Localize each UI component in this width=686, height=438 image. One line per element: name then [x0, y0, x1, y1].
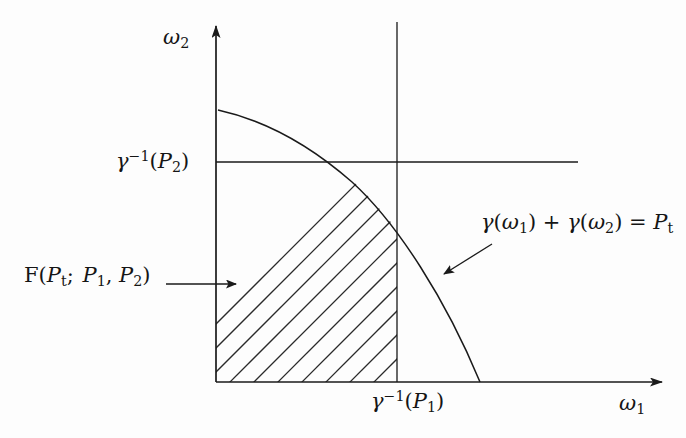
semicolon: ; [67, 263, 74, 287]
p-subscript: 2 [172, 159, 181, 175]
gamma-symbol: γ [371, 389, 384, 413]
x-axis-label: ω1 [619, 393, 645, 416]
constraint-curve [218, 110, 480, 382]
open-paren: ( [405, 389, 413, 413]
close-paren-1: ) [528, 210, 536, 234]
p-symbol: P [413, 389, 427, 413]
omega-subscript: 2 [180, 35, 189, 51]
p2-symbol: P [119, 263, 133, 287]
close-paren: ) [436, 389, 444, 413]
comma: , [106, 263, 113, 287]
pt-symbol: P [47, 263, 61, 287]
open-paren: ( [39, 263, 47, 287]
omega-subscript: 1 [636, 401, 645, 417]
gamma-inverse-p2-label: γ−1(P2) [116, 149, 189, 174]
omega-symbol: ω [163, 25, 180, 49]
close-paren-2: ) [614, 210, 622, 234]
gamma-symbol-1: γ [481, 210, 494, 234]
open-paren-2: ( [580, 210, 588, 234]
inverse-exponent: −1 [129, 148, 150, 164]
omega-1-subscript: 1 [519, 220, 528, 236]
feasible-region-label: F(Pt; P1, P2) [24, 265, 151, 288]
open-paren-1: ( [494, 210, 502, 234]
p2-subscript: 2 [133, 273, 142, 289]
equation-leader-arrow [444, 244, 492, 274]
pt-subscript: t [667, 220, 673, 236]
omega-symbol: ω [619, 391, 636, 415]
close-paren: ) [142, 263, 150, 287]
f-symbol: F [24, 263, 39, 287]
omega-1: ω [502, 210, 519, 234]
y-axis-label: ω2 [163, 27, 189, 50]
figure-container: ω2 ω1 γ−1(P2) γ−1(P1) F(Pt; P1, P2) γ(ω1… [0, 0, 686, 438]
gamma-symbol: γ [116, 149, 129, 173]
p-subscript: 1 [427, 399, 436, 415]
omega-2: ω [588, 210, 605, 234]
close-paren: ) [181, 149, 189, 173]
p1-symbol: P [83, 263, 97, 287]
p1-subscript: 1 [97, 273, 106, 289]
equals-operator: = [629, 210, 647, 234]
open-paren: ( [150, 149, 158, 173]
p-symbol: P [158, 149, 172, 173]
plus-operator: + [543, 210, 561, 234]
gamma-symbol-2: γ [567, 210, 580, 234]
omega-2-subscript: 2 [605, 220, 614, 236]
gamma-inverse-p1-label: γ−1(P1) [371, 389, 444, 414]
pt-symbol: P [653, 210, 667, 234]
constraint-equation-label: γ(ω1) + γ(ω2) = Pt [481, 212, 673, 235]
inverse-exponent: −1 [384, 388, 405, 404]
